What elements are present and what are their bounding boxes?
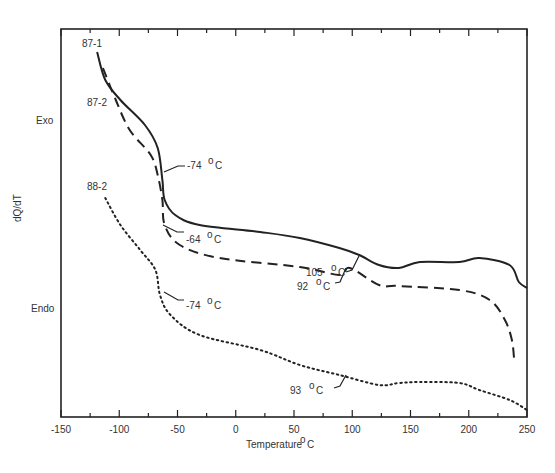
series-88-2-line [105, 198, 527, 410]
svg-text:C: C [214, 300, 221, 311]
svg-text:C: C [316, 385, 323, 396]
series-87-1-line [97, 52, 527, 288]
x-tick-label: -50 [170, 424, 185, 435]
x-tick-label: -100 [109, 424, 129, 435]
svg-text:o: o [331, 262, 337, 273]
annotation-87-1-tg: -74 o C [187, 155, 222, 171]
svg-text:o: o [208, 155, 214, 166]
svg-text:o: o [309, 380, 315, 391]
svg-text:C: C [214, 234, 221, 245]
x-tick-labels: -150-100-50050100150200250 [51, 424, 536, 435]
svg-text:C: C [323, 281, 330, 292]
annotation-87-2-peak: 92 o C [297, 276, 330, 292]
svg-text:o: o [207, 229, 213, 240]
x-tick-label: 200 [460, 424, 477, 435]
svg-text:o: o [300, 434, 306, 445]
x-tick-label: 250 [519, 424, 536, 435]
series-87-2-line [103, 68, 514, 360]
svg-text:C: C [215, 160, 222, 171]
svg-text:-74: -74 [187, 160, 202, 171]
x-tick-label: 50 [288, 424, 300, 435]
svg-text:o: o [207, 295, 213, 306]
svg-text:Temperature: Temperature [246, 439, 303, 450]
exo-label: Exo [36, 115, 54, 126]
annotation-leaders [163, 166, 359, 388]
svg-text:C: C [338, 267, 345, 278]
dsc-chart: -150-100-50050100150200250 87-1 87-2 88-… [0, 0, 555, 473]
svg-text:-64: -64 [186, 234, 201, 245]
plot-frame [61, 29, 527, 417]
annotation-87-2-tg: -64 o C [186, 229, 221, 245]
annotation-88-2-tg: -74 o C [186, 295, 221, 311]
svg-text:C: C [307, 439, 314, 450]
svg-text:o: o [316, 276, 322, 287]
axis-ticks [61, 29, 527, 417]
svg-text:92: 92 [297, 281, 309, 292]
svg-text:93: 93 [290, 385, 302, 396]
y-axis-label: dQ/dT [12, 194, 23, 222]
x-tick-label: 150 [402, 424, 419, 435]
series-label-87-1: 87-1 [82, 38, 102, 49]
annotation-87-1-peak: 105 o C [306, 262, 345, 278]
series-label-87-2: 87-2 [87, 97, 107, 108]
x-tick-label: 0 [233, 424, 239, 435]
annotation-88-2-peak: 93 o C [290, 380, 323, 396]
x-tick-label: 100 [344, 424, 361, 435]
x-tick-label: -150 [51, 424, 71, 435]
series-label-88-2: 88-2 [87, 181, 107, 192]
x-axis-title: Temperature o C [246, 434, 314, 450]
svg-text:-74: -74 [186, 300, 201, 311]
endo-label: Endo [31, 303, 55, 314]
